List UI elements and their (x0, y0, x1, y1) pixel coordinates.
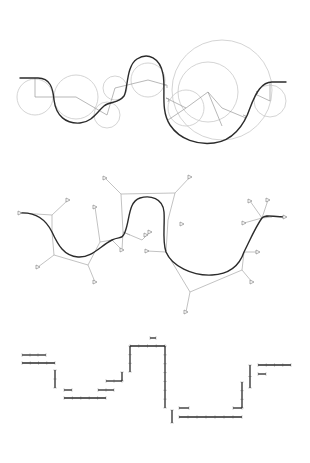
control-polygon-diagram (0, 160, 310, 325)
triangle-handle-icon (250, 280, 254, 284)
spline-curve (20, 197, 285, 275)
triangle-handle-icon (180, 222, 184, 226)
triangle-handle-icon (188, 175, 192, 179)
bars (22, 338, 291, 423)
staircase-svg (0, 325, 310, 435)
construction-circles (17, 40, 286, 140)
triangle-handle-icon (148, 230, 152, 234)
triangle-handle-icon (283, 215, 287, 219)
circle-arc-svg (0, 0, 310, 160)
radial-construction-lines (35, 78, 270, 126)
control-polygon-svg (0, 160, 310, 325)
staircase-bar-diagram (0, 325, 310, 435)
circle-arc-construction-diagram (0, 0, 310, 160)
triangle-handle-icon (93, 280, 97, 284)
triangle-handle-icon (66, 198, 70, 202)
main-curve (20, 56, 286, 143)
triangle-handle-icon (266, 198, 270, 202)
triangle-handle-icon (256, 250, 260, 254)
triangle-handle-icon (242, 221, 246, 225)
triangle-handle-icon (145, 249, 149, 253)
triangle-handle-icon (18, 211, 22, 215)
